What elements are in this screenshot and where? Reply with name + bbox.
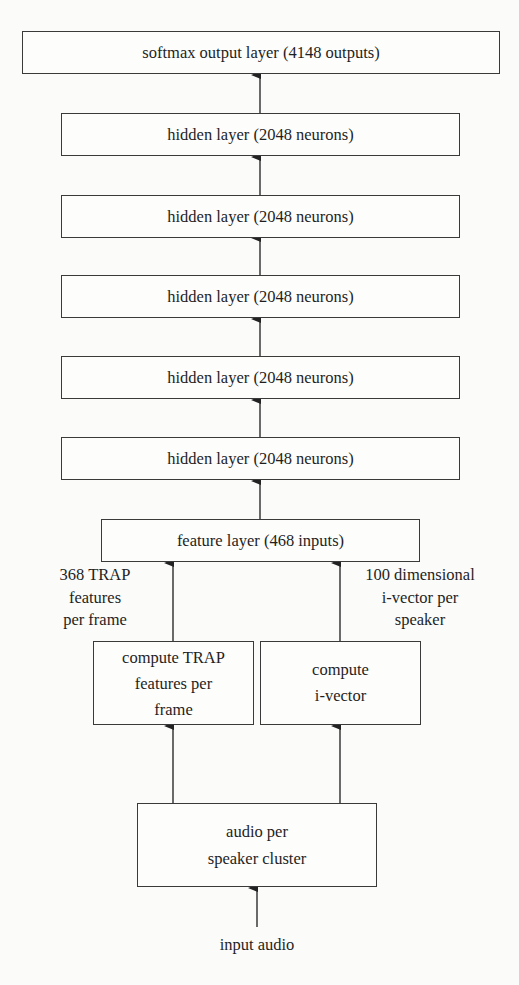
hidden-layer-3-label: hidden layer (2048 neurons)	[167, 286, 354, 307]
hidden-layer-5-label: hidden layer (2048 neurons)	[167, 448, 354, 469]
hidden-layer-1-box: hidden layer (2048 neurons)	[61, 113, 460, 156]
ivector-edge-label: 100 dimensional i-vector per speaker	[350, 564, 490, 632]
compute-trap-features-box: compute TRAP features per frame	[93, 641, 254, 725]
audio-per-speaker-cluster-box: audio per speaker cluster	[137, 803, 377, 887]
compute-ivector-box: compute i-vector	[260, 641, 421, 725]
dnn-architecture-diagram: softmax output layer (4148 outputs) hidd…	[0, 0, 519, 985]
hidden-layer-2-label: hidden layer (2048 neurons)	[167, 206, 354, 227]
softmax-output-layer-box: softmax output layer (4148 outputs)	[22, 31, 500, 74]
hidden-layer-4-box: hidden layer (2048 neurons)	[61, 356, 460, 399]
hidden-layer-4-label: hidden layer (2048 neurons)	[167, 367, 354, 388]
feature-layer-box: feature layer (468 inputs)	[101, 519, 420, 562]
hidden-layer-3-box: hidden layer (2048 neurons)	[61, 275, 460, 318]
trap-features-edge-label: 368 TRAP features per frame	[40, 564, 150, 632]
hidden-layer-2-box: hidden layer (2048 neurons)	[61, 195, 460, 238]
hidden-layer-1-label: hidden layer (2048 neurons)	[167, 124, 354, 145]
feature-layer-label: feature layer (468 inputs)	[177, 530, 344, 551]
input-audio-label: input audio	[197, 935, 317, 955]
softmax-output-layer-label: softmax output layer (4148 outputs)	[142, 42, 379, 63]
hidden-layer-5-box: hidden layer (2048 neurons)	[61, 437, 460, 480]
